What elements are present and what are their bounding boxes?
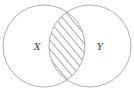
label-y: Y bbox=[97, 42, 104, 52]
intersection-region bbox=[49, 5, 131, 87]
venn-diagram: X Y bbox=[0, 0, 134, 92]
label-x: X bbox=[33, 42, 41, 52]
